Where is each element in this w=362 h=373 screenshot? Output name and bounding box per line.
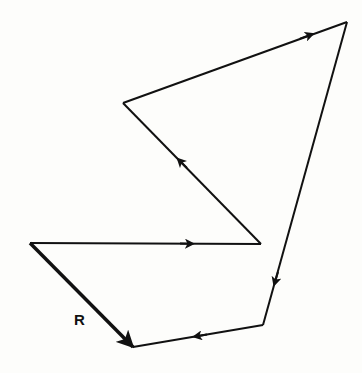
vector-3 — [123, 22, 347, 103]
resultant-label: R — [74, 311, 85, 328]
vector-5 — [133, 325, 263, 347]
arrow-left-icon — [197, 335, 207, 337]
vector-1 — [30, 243, 261, 244]
vector-4 — [263, 22, 347, 325]
vector-diagram — [0, 0, 362, 373]
arrow-up-left-icon — [180, 161, 187, 168]
vector-2 — [123, 103, 261, 244]
resultant-vector — [30, 243, 133, 347]
